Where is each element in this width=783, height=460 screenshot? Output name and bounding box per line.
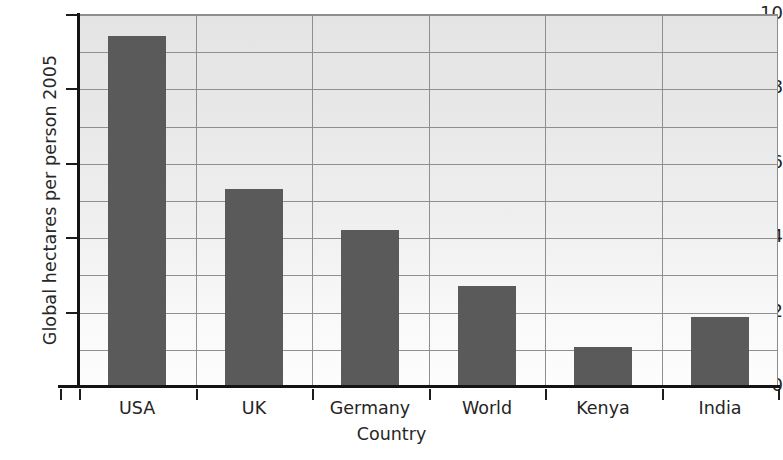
y-axis-title: Global hectares per person 2005 bbox=[40, 0, 60, 400]
bar-kenya bbox=[574, 347, 632, 386]
gridline-horizontal bbox=[79, 127, 777, 128]
x-tick-label-usa: USA bbox=[72, 398, 202, 418]
bar-india bbox=[691, 317, 749, 386]
bar-usa bbox=[108, 36, 166, 386]
page-bleed-through bbox=[0, 450, 783, 460]
bar-germany bbox=[341, 230, 399, 386]
bar-chart-figure: Global hectares per person 2005 0246810 … bbox=[0, 0, 783, 460]
x-tick-label-uk: UK bbox=[189, 398, 319, 418]
gridline-horizontal bbox=[79, 238, 777, 239]
gridline-horizontal bbox=[79, 15, 777, 16]
x-tick-label-india: India bbox=[655, 398, 783, 418]
x-axis-title: Country bbox=[0, 424, 783, 444]
y-axis-line bbox=[77, 13, 80, 387]
x-tick-mark-origin bbox=[60, 389, 62, 400]
gridline-vertical bbox=[429, 15, 430, 386]
x-tick-label-kenya: Kenya bbox=[538, 398, 668, 418]
gridline-horizontal bbox=[79, 313, 777, 314]
gridline-vertical bbox=[662, 15, 663, 386]
gridline-horizontal bbox=[79, 275, 777, 276]
gridline-horizontal bbox=[79, 89, 777, 90]
plot-area bbox=[79, 14, 778, 386]
gridline-horizontal bbox=[79, 52, 777, 53]
gridline-vertical bbox=[312, 15, 313, 386]
gridline-horizontal bbox=[79, 164, 777, 165]
bar-world bbox=[458, 286, 516, 386]
gridline-vertical bbox=[545, 15, 546, 386]
x-tick-label-germany: Germany bbox=[305, 398, 435, 418]
gridline-horizontal bbox=[79, 350, 777, 351]
gridline-horizontal bbox=[79, 201, 777, 202]
bar-uk bbox=[225, 189, 283, 386]
gridline-vertical bbox=[196, 15, 197, 386]
x-axis-line bbox=[58, 385, 780, 388]
x-tick-label-world: World bbox=[422, 398, 552, 418]
